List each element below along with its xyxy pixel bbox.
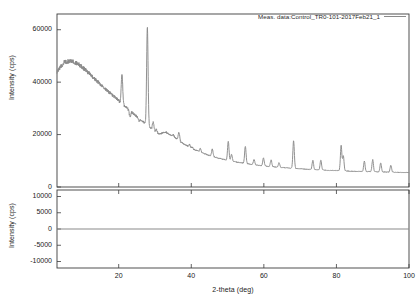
legend-label: Meas. data:Control_TR0-101-2017Feb21_1	[258, 13, 380, 20]
y-tick-label-bottom--10000: -10000	[6, 257, 52, 264]
y-tick-label-top-0: 0	[6, 183, 52, 190]
x-tick-label-80: 80	[316, 272, 356, 279]
x-tick-label-40: 40	[171, 272, 211, 279]
x-axis-title: 2-theta (deg)	[57, 286, 409, 293]
y-tick-label-top-20000: 20000	[6, 130, 52, 137]
legend: Meas. data:Control_TR0-101-2017Feb21_1	[228, 10, 406, 22]
legend-line-swatch	[384, 16, 406, 17]
x-tick-label-60: 60	[244, 272, 284, 279]
y-tick-label-bottom--5000: -5000	[6, 241, 52, 248]
y-tick-label-bottom-5000: 5000	[6, 208, 52, 215]
x-tick-label-100: 100	[389, 272, 420, 279]
xrd-diffractogram-figure	[0, 0, 420, 302]
y-tick-label-top-60000: 60000	[6, 25, 52, 32]
y-tick-label-bottom-0: 0	[6, 225, 52, 232]
figure-background	[0, 0, 420, 302]
x-tick-label-20: 20	[99, 272, 139, 279]
y-tick-label-top-40000: 40000	[6, 78, 52, 85]
y-tick-label-bottom-10000: 10000	[6, 192, 52, 199]
